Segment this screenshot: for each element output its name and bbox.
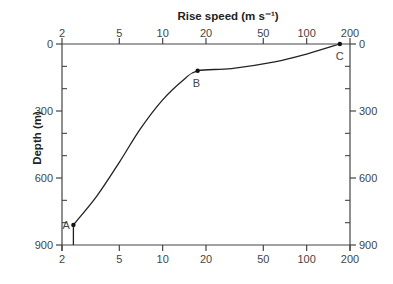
y-tick-label-left: 600	[35, 172, 53, 184]
axis-tick-labels: 2255101020205050100100200200003003006006…	[35, 27, 378, 265]
x-tick-label-top: 2	[59, 27, 65, 39]
y-tick-label-left: 300	[35, 105, 53, 117]
x-tick-label-top: 5	[116, 27, 122, 39]
x-tick-label-top: 200	[341, 27, 359, 39]
x-tick-label-bottom: 5	[116, 253, 122, 265]
point-c-label: C	[336, 50, 344, 62]
y-tick-label-right: 300	[359, 105, 377, 117]
plot-frame	[62, 44, 350, 251]
y-tick-label-right: 0	[359, 38, 365, 50]
y-tick-label-right: 900	[359, 239, 377, 251]
point-a-label: A	[62, 219, 70, 231]
point-b-label: B	[193, 77, 200, 89]
x-tick-label-top: 10	[157, 27, 169, 39]
x-tick-label-bottom: 10	[157, 253, 169, 265]
point-b-marker	[195, 69, 199, 73]
y-tick-label-left: 900	[35, 239, 53, 251]
depth-vs-rise-speed-chart: Rise speed (m s⁻¹) Depth (m) 22551010202…	[0, 0, 393, 284]
x-tick-label-bottom: 20	[200, 253, 212, 265]
x-tick-label-bottom: 100	[297, 253, 315, 265]
x-axis-title: Rise speed (m s⁻¹)	[177, 10, 278, 22]
x-tick-label-top: 100	[297, 27, 315, 39]
point-c-marker	[338, 42, 342, 46]
point-a-marker	[71, 223, 75, 227]
x-tick-label-top: 20	[200, 27, 212, 39]
x-tick-label-bottom: 2	[59, 253, 65, 265]
rise-speed-curve	[73, 44, 339, 245]
x-tick-label-top: 50	[257, 27, 269, 39]
y-tick-label-right: 600	[359, 172, 377, 184]
y-axis-title: Depth (m)	[31, 111, 43, 165]
x-tick-label-bottom: 50	[257, 253, 269, 265]
x-tick-label-bottom: 200	[341, 253, 359, 265]
y-tick-label-left: 0	[47, 38, 53, 50]
